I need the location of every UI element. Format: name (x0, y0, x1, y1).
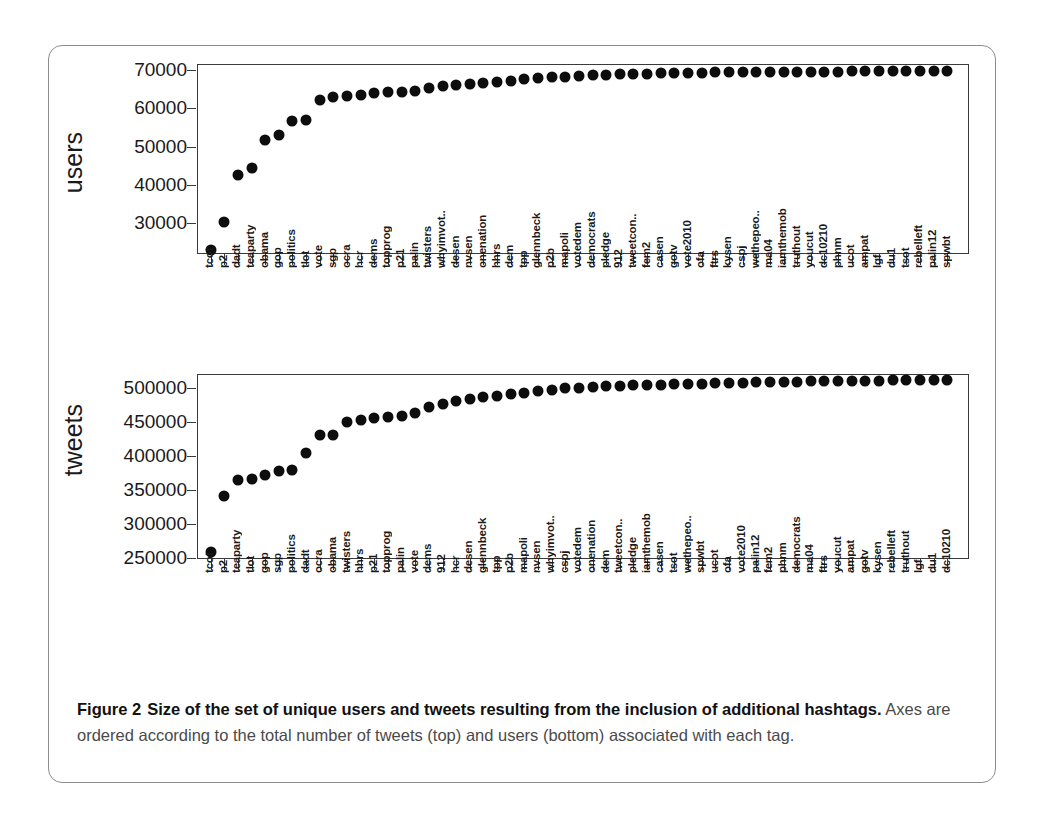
x-tick-label: fem2 (762, 547, 774, 573)
x-tick-label: p21 (367, 554, 379, 573)
x-tick-label: obama (258, 232, 270, 268)
x-tick-label: democrats (585, 212, 597, 268)
data-point (873, 375, 884, 386)
x-tick-label: ftrs (708, 250, 720, 268)
x-tick-label: ampat (844, 540, 856, 573)
data-point (342, 91, 353, 102)
data-point (778, 66, 789, 77)
x-tick-label: whyimvot.. (435, 211, 447, 268)
data-point (628, 68, 639, 79)
x-tick-label: wethepeo.. (681, 516, 693, 573)
data-point (232, 169, 243, 180)
data-point (355, 415, 366, 426)
y-tick-label: 250000 (124, 547, 187, 569)
data-point (710, 67, 721, 78)
x-tick-label: tcot (203, 248, 215, 268)
y-tick-mark (187, 422, 196, 423)
y-tick-mark (187, 558, 196, 559)
y-axis-tick-labels-users: 3000040000500006000070000 (75, 54, 187, 294)
x-tick-label: pledge (599, 232, 611, 268)
y-tick-mark (187, 524, 196, 525)
data-point (396, 86, 407, 97)
data-point (642, 68, 653, 79)
x-tick-label: hcr (449, 556, 461, 573)
data-point (505, 75, 516, 86)
data-point (464, 394, 475, 405)
data-point (451, 396, 462, 407)
x-tick-label: twisters (421, 226, 433, 268)
y-axis-tick-labels-tweets: 250000300000350000400000450000500000 (75, 364, 187, 599)
x-tick-label: tsot (899, 248, 911, 268)
x-tick-label: 912 (435, 554, 447, 573)
data-point (382, 411, 393, 422)
data-point (246, 473, 257, 484)
x-tick-label: dadt (230, 245, 242, 268)
data-point (819, 66, 830, 77)
y-tick-mark (187, 70, 196, 71)
y-tick-label: 30000 (134, 212, 187, 234)
data-point (301, 114, 312, 125)
chart-panel-tweets: tweets 250000300000350000400000450000500… (49, 364, 997, 682)
data-point (846, 66, 857, 77)
data-point (942, 374, 953, 385)
x-tick-label: youcut (803, 232, 815, 269)
data-point (328, 92, 339, 103)
y-tick-mark (187, 388, 196, 389)
x-tick-label: ucot (844, 245, 856, 268)
data-point (369, 413, 380, 424)
data-point (423, 82, 434, 93)
y-tick-label: 50000 (134, 136, 187, 158)
data-point (382, 87, 393, 98)
x-tick-label: vote (408, 550, 420, 573)
data-point (669, 68, 680, 79)
data-point (860, 66, 871, 77)
data-point (628, 380, 639, 391)
figure-caption: Figure 2Size of the set of unique users … (77, 697, 957, 748)
x-tick-label: kysen (871, 541, 883, 573)
x-tick-label: ucot (708, 550, 720, 573)
data-point (423, 401, 434, 412)
x-tick-label: teaparty (244, 225, 256, 268)
data-point (655, 68, 666, 79)
x-tick-label: onenation (476, 215, 488, 268)
x-tick-label: p2b (503, 553, 515, 573)
data-point (819, 376, 830, 387)
x-tick-label: wethepeo.. (749, 211, 761, 268)
data-point (683, 378, 694, 389)
x-tick-label: desen (449, 236, 461, 268)
x-tick-label: dem (599, 550, 611, 573)
data-point (723, 377, 734, 388)
data-point (451, 80, 462, 91)
data-point (532, 73, 543, 84)
data-point (751, 377, 762, 388)
data-point (437, 81, 448, 92)
x-tick-label: sgp (271, 553, 283, 573)
data-point (546, 384, 557, 395)
x-tick-label: casen (653, 541, 665, 573)
data-point (396, 411, 407, 422)
x-tick-label: politics (285, 534, 297, 573)
x-tick-label: whyimvot.. (544, 516, 556, 573)
figure-number: Figure 2 (77, 700, 141, 718)
x-tick-label: dc10210 (940, 529, 952, 573)
x-tick-label: palin (408, 242, 420, 268)
x-tick-label: p2 (217, 560, 229, 573)
data-point (587, 70, 598, 81)
data-point (887, 66, 898, 77)
x-tick-label: ma04 (762, 239, 774, 268)
data-point (232, 475, 243, 486)
data-point (737, 377, 748, 388)
data-point (751, 66, 762, 77)
x-tick-label: cspj (735, 246, 747, 268)
x-tick-label: p21 (394, 249, 406, 268)
x-tick-label: glennbeck (530, 213, 542, 268)
y-tick-label: 60000 (134, 97, 187, 119)
y-tick-mark (187, 456, 196, 457)
x-tick-label: dadt (299, 550, 311, 573)
figure-card: users 3000040000500006000070000 tcotp2da… (48, 45, 996, 783)
x-tick-label: hhrs (490, 244, 502, 268)
x-tick-label: palin12 (926, 230, 938, 268)
data-point (519, 73, 530, 84)
x-tick-label: vote2010 (681, 220, 693, 268)
y-tick-mark (187, 108, 196, 109)
